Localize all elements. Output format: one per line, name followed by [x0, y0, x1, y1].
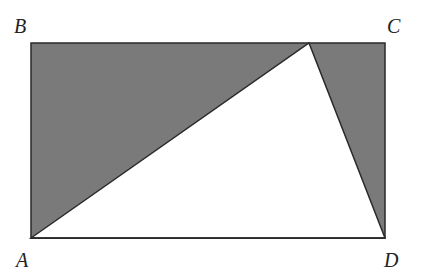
vertex-label-d: D — [383, 249, 399, 271]
vertex-label-c: C — [387, 15, 401, 37]
vertex-label-a: A — [14, 249, 29, 271]
geometry-diagram: B C A D — [0, 0, 427, 275]
vertex-label-b: B — [14, 15, 26, 37]
